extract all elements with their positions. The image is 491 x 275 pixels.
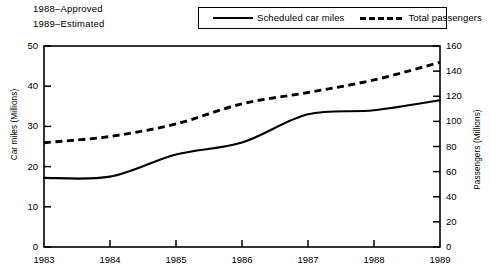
left-axis-ticks — [44, 46, 51, 247]
tick-label: 30 — [16, 121, 38, 131]
tick-label: 40 — [446, 192, 470, 202]
plot-area — [0, 0, 491, 275]
tick-label: 1989 — [420, 255, 460, 265]
y-axis-title-right: Passengers (Millions) — [473, 102, 482, 198]
chart-figure: 1988–Approved 1989–Estimated Scheduled c… — [0, 0, 491, 275]
series-line-scheduled-car-miles — [44, 100, 440, 178]
tick-label: 1987 — [288, 255, 328, 265]
tick-label: 20 — [446, 217, 470, 227]
tick-label: 80 — [446, 142, 470, 152]
tick-label: 1986 — [222, 255, 262, 265]
tick-label: 0 — [446, 242, 470, 252]
tick-label: 50 — [16, 41, 38, 51]
axis-frame — [44, 46, 440, 247]
tick-label: 0 — [16, 242, 38, 252]
x-axis-ticks — [110, 240, 374, 247]
tick-label: 100 — [446, 116, 470, 126]
tick-label: 10 — [16, 202, 38, 212]
tick-label: 120 — [446, 91, 470, 101]
tick-label: 1985 — [156, 255, 196, 265]
tick-label: 60 — [446, 167, 470, 177]
tick-label: 40 — [16, 81, 38, 91]
tick-label: 1984 — [90, 255, 130, 265]
series-line-total-passengers — [44, 62, 440, 142]
tick-label: 20 — [16, 162, 38, 172]
right-axis-ticks — [433, 46, 440, 247]
tick-label: 1988 — [354, 255, 394, 265]
tick-label: 160 — [446, 41, 470, 51]
tick-label: 1983 — [24, 255, 64, 265]
tick-label: 140 — [446, 66, 470, 76]
